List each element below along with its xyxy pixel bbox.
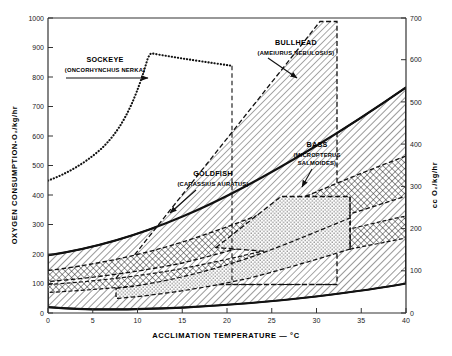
xtick-5: 5 (91, 317, 95, 324)
ytick-right-200: 200 (410, 225, 422, 232)
goldfish-label: GOLDFISH (193, 169, 233, 178)
bullhead-label: BULLHEAD (275, 38, 317, 47)
ytick-600: 600 (32, 133, 44, 140)
bass-sublabel-2: SALMOIDES) (298, 160, 336, 166)
y-axis-title-left: OXYGEN CONSUMPTION-O₂/kg/hr (10, 106, 19, 245)
ytick-1000: 1000 (28, 15, 44, 22)
xtick-40: 40 (402, 317, 410, 324)
oxygen-consumption-chart: 0 100 200 300 400 500 600 700 800 900 10… (0, 0, 452, 356)
ytick-100: 100 (32, 280, 44, 287)
ytick-200: 200 (32, 251, 44, 258)
ytick-right-100: 100 (410, 267, 422, 274)
xtick-0: 0 (46, 317, 50, 324)
xtick-35: 35 (357, 317, 365, 324)
bullhead-sublabel: (AMEIURUS NEBULOSUS) (258, 50, 335, 56)
xtick-10: 10 (134, 317, 142, 324)
ytick-right-0: 0 (410, 310, 414, 317)
ytick-right-500: 500 (410, 99, 422, 106)
bass-sublabel-1: (MICROPTERUS (293, 152, 340, 158)
ytick-900: 900 (32, 44, 44, 51)
ytick-right-700: 700 (410, 15, 422, 22)
xtick-15: 15 (178, 317, 186, 324)
ytick-right-600: 600 (410, 56, 422, 63)
bass-label: BASS (306, 140, 327, 149)
y-axis-title-right: cc O₂/kg/hr (430, 162, 439, 209)
ytick-right-300: 300 (410, 183, 422, 190)
ytick-400: 400 (32, 192, 44, 199)
ytick-300: 300 (32, 221, 44, 228)
ytick-right-400: 400 (410, 141, 422, 148)
ytick-0: 0 (40, 310, 44, 317)
goldfish-sublabel: (CARASSIUS AURATUS) (177, 181, 248, 187)
sockeye-label: SOCKEYE (86, 55, 123, 64)
ytick-500: 500 (32, 162, 44, 169)
ytick-700: 700 (32, 103, 44, 110)
xtick-20: 20 (223, 317, 231, 324)
figure-container: 0 100 200 300 400 500 600 700 800 900 10… (0, 0, 452, 356)
xtick-30: 30 (313, 317, 321, 324)
sockeye-sublabel: (ONCORHYNCHUS NERKA) (65, 67, 145, 73)
xtick-25: 25 (268, 317, 276, 324)
x-axis-title: ACCLIMATION TEMPERATURE — °C (152, 331, 299, 340)
ytick-800: 800 (32, 74, 44, 81)
